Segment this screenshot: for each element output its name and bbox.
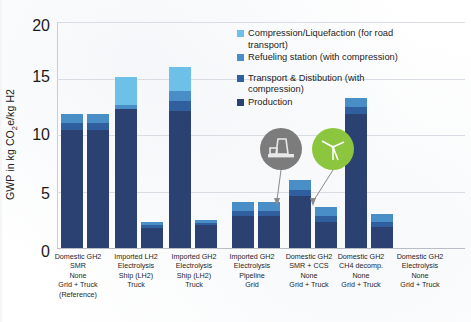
bar-12-segment-0: [371, 227, 393, 248]
y-tick-5: 5: [22, 185, 50, 203]
legend-label-compression-l2: transport): [248, 40, 288, 50]
gridline-20: [57, 22, 465, 23]
x-category-1-line-5: (Reference): [42, 290, 114, 299]
y-tick-20: 20: [22, 17, 50, 35]
bar-10-segment-0: [315, 222, 337, 248]
bar-12-segment-2: [371, 214, 393, 222]
legend-label-production: Production: [248, 97, 469, 109]
legend-swatch-production: [237, 99, 244, 106]
x-category-6-line-1: Domestic GH2: [330, 252, 392, 261]
bar-8: [258, 202, 280, 248]
legend-swatch-transport: [237, 75, 244, 82]
bar-1-segment-1: [61, 123, 83, 131]
bar-5-segment-0: [169, 111, 191, 248]
bar-8-segment-0: [258, 216, 280, 248]
bar-5: [169, 67, 191, 248]
x-category-7-line-4: Grid + Truck: [384, 280, 456, 289]
legend-label-transport-l1: Transport & Distibution (with: [248, 73, 364, 83]
bar-5-segment-2: [169, 91, 191, 101]
x-category-7-line-3: None: [384, 271, 456, 280]
bar-1: [61, 114, 83, 248]
legend-label-transport-l2: compression): [248, 84, 304, 94]
bar-7: [232, 202, 254, 248]
y-axis-title: GWP in kg CO2e/kg H2: [4, 60, 19, 200]
fossil-power-plant-icon: [260, 128, 302, 170]
x-category-6-line-2: CH4 decomp.: [330, 261, 392, 270]
x-category-6-line-3: None: [330, 271, 392, 280]
bar-6-segment-0: [195, 225, 217, 248]
bar-12: [371, 214, 393, 248]
legend-label-compression-l1: Compression/Liquefaction (for road: [248, 28, 393, 38]
bar-3: [115, 77, 137, 248]
chart-legend: Compression/Liquefaction (for road trans…: [237, 28, 469, 110]
bar-3-segment-0: [115, 109, 137, 248]
bar-7-segment-2: [232, 202, 254, 211]
legend-label-refueling: Refueling station (with compression): [248, 52, 469, 64]
y-axis-title-sub: 2: [10, 126, 19, 130]
bar-5-segment-3: [169, 67, 191, 91]
y-tick-15: 15: [22, 68, 50, 86]
bar-6: [195, 220, 217, 248]
wind-turbine-icon: [312, 128, 354, 170]
bar-1-segment-2: [61, 114, 83, 123]
bar-5-segment-1: [169, 101, 191, 111]
bar-10-segment-2: [315, 207, 337, 216]
x-category-label-6: Domestic GH2CH4 decomp.NoneGrid + Truck: [330, 252, 392, 290]
stacked-bar-chart: GWP in kg CO2e/kg H2 20 15 10 5 0 Compre…: [0, 0, 471, 322]
legend-swatch-compression: [237, 30, 244, 37]
annotation-icons: [256, 128, 376, 208]
bar-4: [141, 222, 163, 248]
x-axis-labels: Domestic GH2SMRNoneGrid + Truck(Referenc…: [0, 250, 471, 322]
bar-2-segment-1: [87, 123, 109, 131]
y-axis-title-tail: e/kg H2: [4, 89, 16, 126]
bar-2: [87, 114, 109, 248]
legend-item-transport: Transport & Distibution (with compressio…: [237, 73, 469, 96]
x-category-7-line-2: Electrolysis: [384, 261, 456, 270]
y-tick-10: 10: [22, 126, 50, 144]
bar-2-segment-2: [87, 114, 109, 123]
legend-item-production: Production: [237, 97, 469, 109]
x-category-label-7: Domestic GH2ElectrolysisNoneGrid + Truck: [384, 252, 456, 290]
y-axis-title-head: GWP in kg CO: [4, 130, 16, 200]
legend-item-compression: Compression/Liquefaction (for road trans…: [237, 28, 469, 51]
x-category-7-line-1: Domestic GH2: [384, 252, 456, 261]
bar-1-segment-0: [61, 130, 83, 248]
bar-3-segment-3: [115, 77, 137, 104]
legend-item-refueling: Refueling station (with compression): [237, 52, 469, 64]
legend-swatch-refueling: [237, 54, 244, 61]
bar-7-segment-0: [232, 216, 254, 248]
bar-10: [315, 207, 337, 248]
gridline-0: [57, 248, 465, 249]
x-category-6-line-4: Grid + Truck: [330, 280, 392, 289]
bar-4-segment-0: [141, 228, 163, 248]
bar-2-segment-0: [87, 130, 109, 248]
